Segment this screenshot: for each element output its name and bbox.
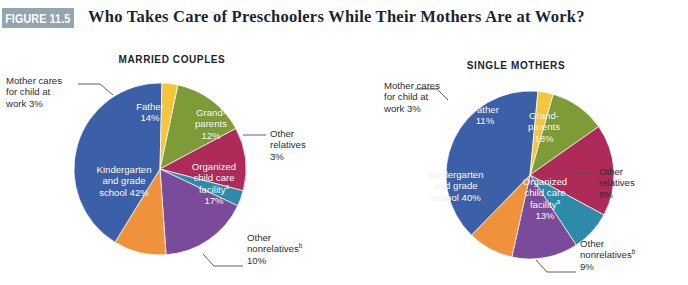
label-grandparents-married: Grand- parents 12%: [181, 107, 241, 141]
label-other-relatives-single: Other relatives 8%: [599, 166, 635, 200]
leader-line-other-nonrelatives: [203, 254, 214, 266]
label-kindergarten-single: Kindergarten and grade school 40%: [408, 169, 504, 203]
label-other-nonrelatives-single: Other nonrelativesb 9%: [580, 238, 635, 272]
footnote-marker-a: a: [557, 198, 561, 205]
leader-line-other-nonrelatives: [536, 260, 547, 272]
footnote-marker-a: a: [226, 183, 230, 190]
pie-chart-married-couples: MARRIED COUPLES Mother cares for child a…: [0, 0, 344, 285]
label-mother-cares-single: Mother cares for child at work 3%: [384, 80, 440, 114]
label-kindergarten-married: Kindergarten and grade school 42%: [76, 164, 172, 198]
label-other-nonrelatives-married: Other nonrelativesb 10%: [247, 232, 302, 266]
label-father-married: Father 14%: [118, 101, 182, 124]
label-mother-cares-married: Mother cares for child at work 3%: [6, 75, 62, 109]
footnote-marker-b: b: [299, 242, 303, 249]
pie-chart-single-mothers: SINGLE MOTHERS Mother cares for child at…: [344, 0, 688, 285]
label-other-relatives-married: Other relatives 3%: [270, 128, 306, 162]
label-organized-child-care-married: Organized child care facilitya 17%: [176, 161, 252, 207]
label-organized-child-care-single: Organized child care facilitya 13%: [507, 176, 583, 222]
leader-line-mother-cares-2: [100, 84, 113, 95]
footnote-marker-b: b: [632, 248, 636, 255]
label-grandparents-single: Grand- parents 18%: [514, 110, 574, 144]
label-father-single: Father 11%: [454, 104, 516, 127]
figure-root: FIGURE 11.5 Who Takes Care of Preschoole…: [0, 0, 688, 285]
